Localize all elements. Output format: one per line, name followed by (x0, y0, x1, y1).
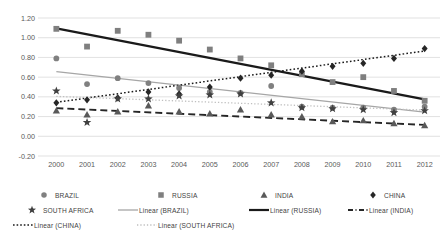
x-axis-tick-label: 2006 (233, 160, 249, 169)
y-axis-tick-label: 0.40 (21, 92, 35, 101)
diamond-marker (53, 99, 59, 106)
legend-label: CHINA (384, 192, 405, 199)
star-marker (267, 98, 276, 106)
x-axis-tick-label: 2012 (417, 160, 433, 169)
x-axis-tick-label: 2001 (79, 160, 95, 169)
chart-legend: BRAZILRUSSIAINDIACHINASOUTH AFRICALinear… (0, 186, 447, 243)
diamond-marker (268, 72, 274, 79)
legend-item-india[interactable]: INDIA (253, 188, 293, 202)
diamond-marker (362, 189, 384, 201)
legend-label: Linear (INDIA) (369, 207, 413, 214)
legend-row: SOUTH AFRICALinear (BRAZIL)Linear (RUSSI… (0, 203, 447, 217)
star-marker (420, 106, 429, 114)
square-marker (330, 79, 336, 85)
star-marker (144, 94, 153, 102)
circle-marker (84, 81, 90, 87)
x-axis-tick-label: 2005 (202, 160, 218, 169)
square-marker (391, 88, 397, 94)
diamond-marker (360, 60, 366, 67)
square-marker (146, 32, 152, 38)
y-axis-tick-label: 0.80 (21, 53, 35, 62)
triangle-marker (237, 106, 244, 112)
y-axis-tick-label: -0.20 (19, 152, 35, 161)
x-axis-tick-label: 2007 (263, 160, 279, 169)
star-marker (206, 90, 215, 98)
dotted-dark-line (12, 219, 34, 231)
star-marker (175, 91, 184, 99)
diamond-marker (207, 83, 213, 90)
legend-label: RUSSIA (172, 192, 197, 199)
star-marker (328, 104, 337, 112)
triangle-marker (268, 111, 275, 117)
square-marker (150, 189, 172, 201)
square-marker (115, 28, 121, 34)
legend-label: Linear (SOUTH AFRICA) (158, 222, 234, 229)
solid-heavy-line (248, 204, 270, 216)
legend-item-linear-russia[interactable]: Linear (RUSSIA) (248, 203, 321, 217)
diamond-marker (330, 63, 336, 70)
legend-row: BRAZILRUSSIAINDIACHINA (0, 188, 447, 202)
x-axis-tick-labels: 2000200120022003200420052006200720082009… (48, 160, 432, 169)
legend-label: Linear (BRAZIL) (139, 207, 189, 214)
triangle-marker (206, 110, 213, 116)
square-marker (207, 47, 213, 53)
solid-light-line (117, 204, 139, 216)
square-marker (422, 98, 428, 104)
circle-marker (146, 80, 152, 86)
x-axis-tick-label: 2004 (171, 160, 187, 169)
y-axis-tick-label: 1.00 (21, 33, 35, 42)
triangle-marker (261, 192, 268, 198)
triangle-marker (83, 111, 90, 117)
circle-marker (115, 75, 121, 81)
dash-dot-line (347, 204, 369, 216)
x-axis-tick-label: 2011 (386, 160, 401, 169)
star-marker (359, 105, 368, 113)
x-axis-tick-label: 2000 (48, 160, 64, 169)
y-axis-tick-labels: 1.201.000.800.600.400.200.00-0.20 (19, 14, 35, 161)
y-axis-tick-label: 0.20 (21, 112, 35, 121)
legend-label: Linear (CHINA) (34, 222, 81, 229)
diamond-marker (238, 75, 244, 82)
square-marker (53, 26, 59, 32)
trendline (56, 28, 424, 99)
legend-row: Linear (CHINA)Linear (SOUTH AFRICA) (0, 218, 447, 232)
legend-item-linear-india[interactable]: Linear (INDIA) (347, 203, 413, 217)
x-axis-tick-label: 2010 (355, 160, 371, 169)
triangle-marker (253, 189, 275, 201)
x-axis-tick-label: 2008 (294, 160, 310, 169)
legend-item-south-africa[interactable]: SOUTH AFRICA (21, 203, 94, 217)
legend-item-linear-brazil[interactable]: Linear (BRAZIL) (117, 203, 189, 217)
solid-light-line (117, 204, 139, 216)
triangle-marker (360, 117, 367, 123)
legend-item-brazil[interactable]: BRAZIL (33, 188, 79, 202)
circle-marker (33, 189, 55, 201)
y-axis-tick-label: 1.20 (21, 14, 35, 23)
circle-marker (41, 192, 47, 198)
circle-marker (268, 83, 274, 89)
chart-container: 1.201.000.800.600.400.200.00-0.20 200020… (0, 0, 447, 243)
y-axis-tick-label: 0.00 (21, 132, 35, 141)
solid-heavy-line (248, 204, 270, 216)
circle-marker (176, 85, 182, 91)
dash-dot-line (347, 204, 369, 216)
dotted-light-line (136, 219, 158, 231)
square-marker (268, 62, 274, 68)
legend-label: INDIA (275, 192, 293, 199)
legend-item-linear-china[interactable]: Linear (CHINA) (12, 218, 81, 232)
legend-label: BRAZIL (55, 192, 79, 199)
diamond-marker (84, 96, 90, 103)
x-axis-tick-label: 2002 (110, 160, 126, 169)
circle-marker (53, 56, 59, 62)
triangle-marker (145, 102, 152, 108)
y-axis-tick-label: 0.60 (21, 73, 35, 82)
dotted-dark-line (12, 219, 34, 231)
square-marker (238, 56, 244, 62)
legend-item-china[interactable]: CHINA (362, 188, 405, 202)
star-marker (28, 206, 36, 214)
star-marker (52, 86, 61, 94)
legend-item-russia[interactable]: RUSSIA (150, 188, 197, 202)
legend-label: Linear (RUSSIA) (270, 207, 321, 214)
legend-item-linear-south-africa[interactable]: Linear (SOUTH AFRICA) (136, 218, 234, 232)
dotted-light-line (136, 219, 158, 231)
gridlines (38, 18, 440, 156)
